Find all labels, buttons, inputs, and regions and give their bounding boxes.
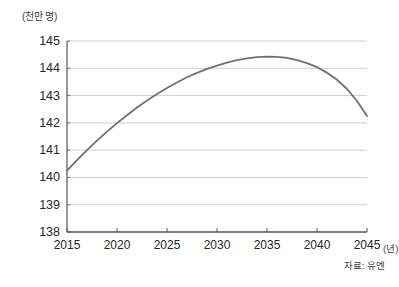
x-axis-unit-label: (년) [383, 241, 398, 255]
x-tick-label: 2045 [354, 239, 381, 251]
x-tick-label: 2030 [204, 239, 231, 251]
x-axis-tick-labels: 2015202020252030203520402045(년) [0, 0, 399, 287]
chart-container: (천만 명) 138139140141142143144145 20152020… [0, 0, 399, 287]
x-tick-label: 2040 [304, 239, 331, 251]
x-tick-label: 2035 [254, 239, 281, 251]
x-tick-label: 2025 [154, 239, 181, 251]
x-tick-label: 2015 [54, 239, 81, 251]
source-note: 자료: 유엔 [344, 258, 385, 272]
x-tick-label: 2020 [104, 239, 131, 251]
